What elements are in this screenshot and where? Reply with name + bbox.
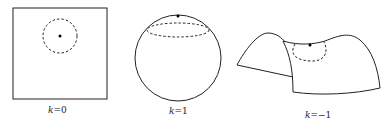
saddle-left-flap-top	[237, 33, 285, 65]
flat-plane	[13, 8, 107, 99]
saddle-left-flap-bottom	[237, 65, 293, 77]
saddle-bottom-edge	[293, 88, 380, 94]
label-k1: k=1	[169, 106, 188, 116]
label-k-minus1: k=−1	[305, 110, 331, 120]
sphere-figure	[135, 15, 221, 102]
saddle-top-edge	[283, 35, 380, 88]
label-k0: k=0	[48, 105, 67, 115]
saddle-figure	[237, 33, 380, 94]
pole-point	[177, 15, 180, 18]
center-point	[59, 35, 62, 38]
dashed-ellipse	[147, 23, 209, 37]
flat-plane-figure	[13, 8, 107, 99]
saddle-point	[309, 44, 312, 47]
saddle-left-flap-edge	[283, 41, 293, 92]
